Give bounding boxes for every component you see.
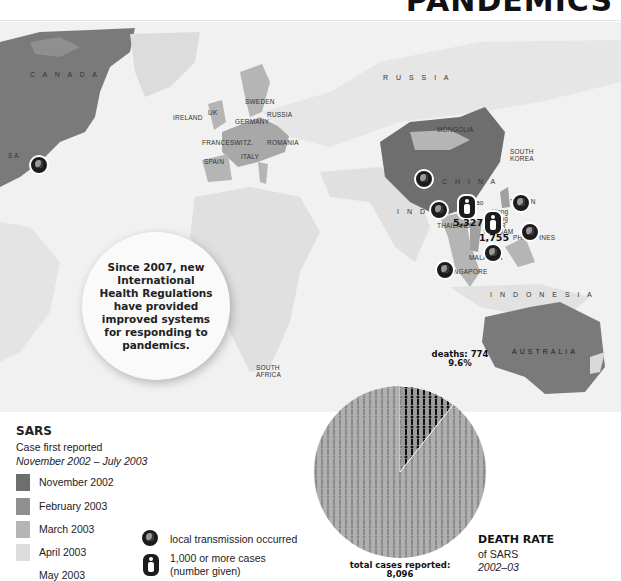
case-count-hong-kong: 1,755	[479, 232, 509, 243]
swatch-november-2002	[16, 474, 30, 491]
legend-subtitle: Case first reported	[16, 441, 102, 453]
deaths-percent: 9.6%	[420, 359, 500, 368]
total-cases-value: 8,096	[340, 570, 460, 579]
local-transmission-icon-vietnam[interactable]	[483, 243, 503, 263]
local-transmission-icon-mongolia[interactable]	[414, 169, 434, 189]
legend-local-transmission-label: local transmission occurred	[170, 533, 297, 545]
label-russia-europe: RUSSIA	[267, 111, 292, 118]
callout-text: Since 2007, new International Health Reg…	[97, 261, 215, 352]
label-romania: ROMANIA	[267, 139, 299, 146]
label-mongolia: MONGOLIA	[437, 126, 474, 133]
page-title: PANDEMICS	[406, 0, 613, 16]
label-south-africa: SOUTH AFRICA	[256, 364, 286, 378]
local-transmission-icon-china[interactable]	[429, 200, 449, 220]
label-russia: R U S S I A	[383, 74, 451, 81]
death-rate-pie-chart	[313, 385, 487, 559]
death-rate-subtitle: of SARS	[478, 548, 518, 560]
pie-svg	[313, 385, 487, 559]
person-icon	[141, 552, 161, 578]
local-transmission-icon	[140, 528, 160, 548]
label-sweden: SWEDEN	[245, 98, 275, 105]
local-transmission-icon-canada[interactable]	[29, 155, 49, 175]
label-france: FRANCE	[202, 139, 230, 146]
local-transmission-icon-philippines[interactable]	[520, 222, 540, 242]
swatch-february-2003	[16, 498, 30, 515]
label-germany: GERMANY	[235, 118, 269, 125]
label-indonesia: I N D O N E S I A	[490, 291, 595, 298]
legend-label-february-2003: February 2003	[39, 500, 107, 512]
label-spain: SPAIN	[204, 158, 224, 165]
label-south-korea: SOUTH KOREA	[510, 148, 536, 162]
case-count-china: 5,327	[453, 217, 483, 228]
legend-label-april-2003: April 2003	[39, 546, 86, 558]
label-canada: C A N A D A	[30, 71, 100, 78]
local-transmission-icon-singapore[interactable]	[435, 260, 455, 280]
label-ireland: IRELAND	[173, 114, 203, 121]
label-italy: ITALY	[241, 153, 259, 160]
swatch-march-2003	[16, 521, 30, 538]
sars-legend: SARS Case first reported November 2002 –…	[0, 412, 320, 581]
swatch-april-2003	[16, 544, 30, 561]
legend-title: SARS	[16, 424, 52, 438]
ihr-callout: Since 2007, new International Health Reg…	[82, 232, 230, 380]
death-rate-period: 2002–03	[478, 561, 519, 573]
world-map: C A N A D A S A R U S S I A IRELAND UK S…	[0, 22, 621, 412]
death-rate-title: DEATH RATE	[478, 533, 554, 546]
label-china: C H I N A	[442, 178, 498, 185]
label-uk: UK	[208, 109, 217, 116]
legend-1000-cases-label: 1,000 or more cases	[170, 552, 266, 564]
title-divider	[0, 20, 621, 21]
legend-period: November 2002 – July 2003	[16, 455, 147, 467]
label-australia: AUSTRALIA	[512, 348, 578, 355]
legend-label-may-2003: May 2003	[39, 569, 85, 581]
legend-label-november-2002: November 2002	[39, 476, 114, 488]
label-switzerland: SWITZ.	[230, 139, 253, 146]
legend-label-march-2003: March 2003	[39, 523, 94, 535]
local-transmission-icon-taiwan[interactable]	[511, 193, 531, 213]
legend-number-given-label: (number given)	[170, 565, 241, 577]
label-usa: S A	[8, 152, 19, 159]
